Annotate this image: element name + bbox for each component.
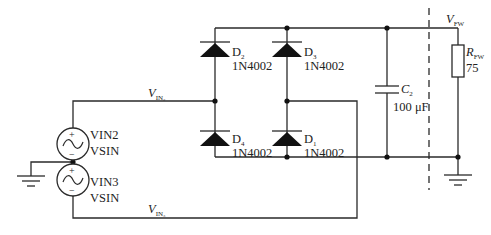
resistor-rfw: RFW 75 — [452, 45, 485, 77]
d2-ref: D — [232, 45, 241, 59]
svg-text:−: − — [69, 185, 75, 196]
rfw-ref: R — [465, 45, 474, 59]
svg-text:+: + — [69, 165, 75, 176]
diode-d4-icon — [200, 132, 230, 146]
source-vin3: + − VIN3 VSIN — [57, 164, 119, 205]
diode-d1: D1 1N4002 — [272, 131, 344, 160]
junction-dot — [284, 25, 289, 30]
vin3-value: VSIN — [90, 191, 119, 205]
output-ground-icon — [444, 175, 472, 185]
svg-text:RFW: RFW — [465, 45, 485, 61]
svg-text:C2: C2 — [401, 82, 413, 98]
junction-dot — [384, 154, 389, 159]
d1-ref: D — [304, 132, 313, 146]
d3-ref: D — [304, 45, 313, 59]
svg-text:−: − — [69, 149, 75, 160]
junction-dot — [284, 154, 289, 159]
rfw-value: 75 — [466, 61, 479, 75]
vin3-ref: VIN3 — [90, 175, 118, 189]
vin2-ref: VIN2 — [90, 128, 118, 142]
junction-dot — [384, 25, 389, 30]
d3-value: 1N4002 — [304, 59, 344, 73]
d1-value: 1N4002 — [304, 146, 344, 160]
diode-d2-icon — [200, 43, 230, 57]
junction-dot — [212, 98, 217, 103]
c2-value: 100 μF — [393, 100, 429, 114]
diode-d1-icon — [272, 132, 302, 146]
d4-value: 1N4002 — [232, 146, 272, 160]
junction-dot — [284, 98, 289, 103]
d4-ref: D — [232, 132, 241, 146]
svg-text:+: + — [69, 129, 75, 140]
diode-d3-icon — [272, 43, 302, 57]
diode-d2: D2 1N4002 — [200, 42, 272, 73]
svg-text:VFW: VFW — [446, 12, 465, 28]
diode-d3: D3 1N4002 — [272, 42, 344, 73]
junction-dot — [455, 154, 460, 159]
source-vin2: + − VIN2 VSIN — [57, 128, 119, 160]
d2-value: 1N4002 — [232, 59, 272, 73]
svg-text:VIN₂: VIN₂ — [148, 86, 166, 102]
input-ground-icon — [17, 176, 45, 186]
vin2-value: VSIN — [90, 144, 119, 158]
resistor-icon — [452, 45, 464, 77]
svg-text:VIN₃: VIN₃ — [148, 202, 166, 218]
capacitor-c2: C2 100 μF — [375, 82, 429, 114]
vin2-net-wire — [73, 101, 215, 128]
diode-d4: D4 1N4002 — [200, 131, 272, 160]
circuit-diagram: D2 1N4002 D3 1N4002 D4 1N4002 D1 1N4002 … — [0, 0, 491, 235]
